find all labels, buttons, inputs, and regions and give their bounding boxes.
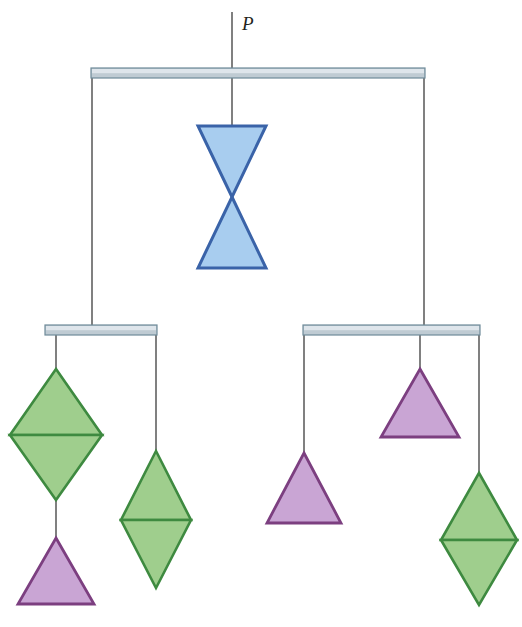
top-beam xyxy=(91,68,425,78)
figure-canvas: P xyxy=(0,0,522,627)
right-beam xyxy=(303,325,480,335)
mobile-diagram-svg: P xyxy=(0,0,522,627)
load-label-P: P xyxy=(241,13,254,34)
left-beam xyxy=(45,325,157,335)
